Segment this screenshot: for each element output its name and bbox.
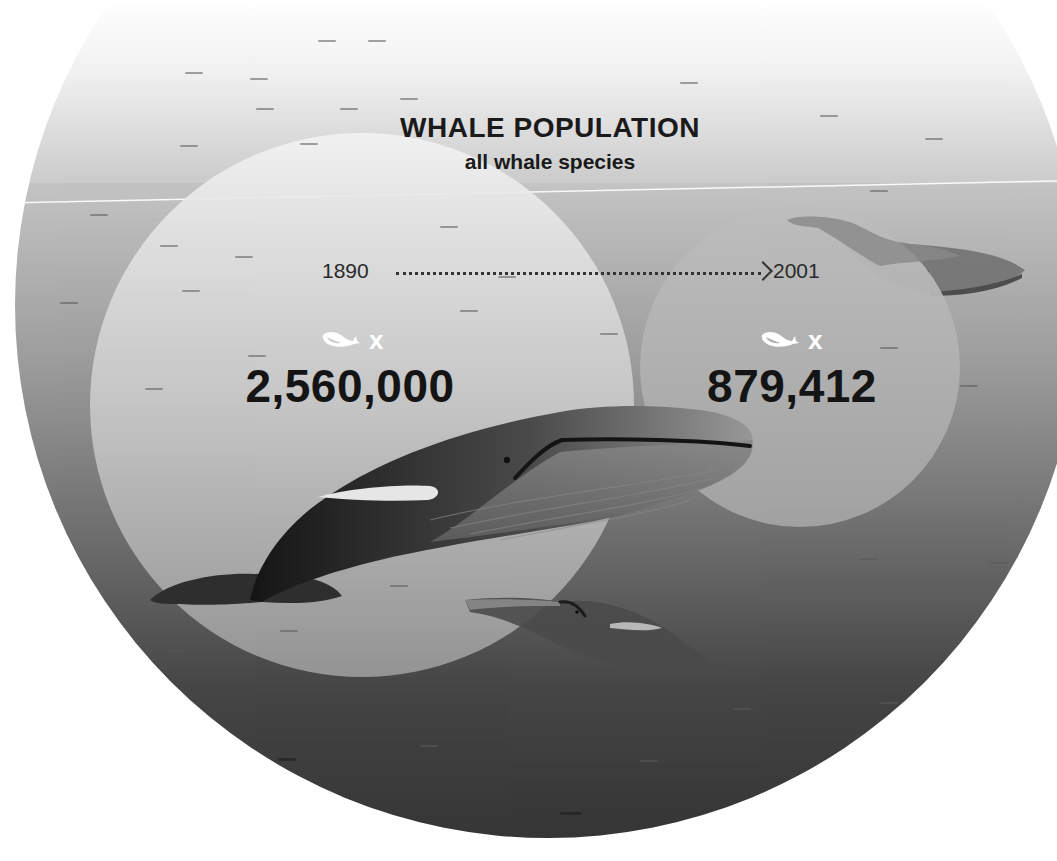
- whale-icon: [321, 329, 361, 351]
- unit-label-2001: x: [760, 327, 822, 353]
- population-value-2001: 879,412: [692, 359, 892, 413]
- unit-label-1890: x: [321, 327, 383, 353]
- infographic-subtitle: all whale species: [330, 150, 770, 174]
- infographic-title: WHALE POPULATION: [330, 112, 770, 144]
- dotted-timeline-line: [396, 272, 761, 275]
- multiplier-symbol: x: [369, 327, 383, 353]
- year-end-label: 2001: [773, 259, 820, 283]
- population-value-1890: 2,560,000: [200, 359, 500, 413]
- year-start-label: 1890: [322, 259, 369, 283]
- whale-icon: [760, 329, 800, 351]
- multiplier-symbol: x: [808, 327, 822, 353]
